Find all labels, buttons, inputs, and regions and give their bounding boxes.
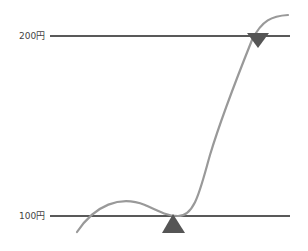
- price-chart: [0, 0, 308, 251]
- price-curve: [77, 15, 288, 232]
- buy-marker-icon: [162, 214, 185, 233]
